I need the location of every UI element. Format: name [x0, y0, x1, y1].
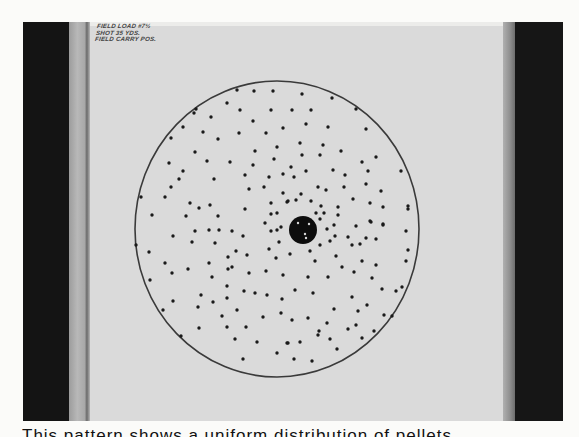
figure-caption: This pattern shows a uniform distributio…: [22, 426, 452, 437]
pellet-hole: [235, 308, 238, 311]
pellet-hole: [379, 189, 382, 192]
pellet-hole: [311, 291, 314, 294]
pellet-hole: [212, 177, 215, 180]
pellet-hole: [294, 198, 297, 201]
pellet-hole: [290, 108, 293, 111]
pellet-hole: [264, 131, 267, 134]
pellet-hole: [360, 160, 363, 163]
pellet-hole: [318, 217, 321, 220]
pellet-hole: [275, 351, 278, 354]
pellet-hole: [197, 206, 200, 209]
pellet-hole: [269, 229, 272, 232]
pellet-hole: [374, 237, 377, 240]
pellet-hole: [339, 149, 342, 152]
pellet-hole: [286, 199, 289, 202]
pellet-hole: [346, 327, 349, 330]
pellet-hole: [243, 173, 246, 176]
pellet-hole: [275, 228, 278, 231]
pellet-hole: [326, 275, 329, 278]
pellet-hole: [213, 241, 216, 244]
pellet-hole: [335, 347, 338, 350]
pellet-hole: [196, 305, 199, 308]
speck: [308, 223, 310, 225]
pellet-hole: [374, 263, 377, 266]
pellet-hole: [318, 243, 321, 246]
pellet-hole: [188, 201, 191, 204]
pellet-hole: [247, 187, 250, 190]
pellet-hole: [150, 213, 153, 216]
pellet-hole: [406, 207, 409, 210]
pellet-hole: [390, 314, 393, 317]
pellet-hole: [269, 201, 272, 204]
pellet-hole: [354, 323, 357, 326]
pellet-hole: [331, 168, 334, 171]
pellet-hole: [290, 318, 293, 321]
pellet-hole: [242, 289, 245, 292]
pellet-hole: [237, 131, 240, 134]
pellet-hole: [281, 172, 284, 175]
pellet-hole: [245, 253, 248, 256]
pellet-hole: [316, 333, 319, 336]
pellet-hole: [226, 267, 229, 270]
pellet-hole: [394, 289, 397, 292]
pellet-hole: [181, 169, 184, 172]
pellet-hole: [209, 115, 212, 118]
pellet-hole: [274, 256, 277, 259]
pellet-hole: [300, 153, 303, 156]
pellet-hole: [233, 337, 236, 340]
pellet-hole: [228, 160, 231, 163]
pellet-hole: [399, 169, 402, 172]
pellet-hole: [205, 159, 208, 162]
speck: [297, 222, 299, 224]
pellet-hole: [350, 243, 353, 246]
pellet-hole: [238, 108, 241, 111]
pellet-hole: [184, 214, 187, 217]
pellet-hole: [230, 229, 233, 232]
pellet-hole: [304, 169, 307, 172]
pellet-hole: [267, 247, 270, 250]
pellet-hole: [404, 259, 407, 262]
pellet-hole: [310, 359, 313, 362]
pellet-hole: [170, 271, 173, 274]
pellet-hole: [358, 242, 361, 245]
pellet-hole: [217, 228, 220, 231]
pellet-hole: [251, 119, 254, 122]
pellet-hole: [289, 165, 292, 168]
pellet-hole: [366, 169, 369, 172]
pellet-hole: [406, 248, 409, 251]
pellet-hole: [292, 357, 295, 360]
pellet-hole: [330, 96, 333, 99]
pellet-hole: [220, 314, 223, 317]
pellet-hole: [332, 223, 335, 226]
pellet-hole: [272, 157, 275, 160]
pellet-hole: [163, 261, 166, 264]
pellet-hole: [179, 334, 182, 337]
pellet-hole: [306, 316, 309, 319]
speck: [305, 237, 307, 239]
pellet-hole: [171, 234, 174, 237]
pellet-hole: [404, 229, 407, 232]
pellet-hole: [275, 145, 278, 148]
pellet-hole: [197, 326, 200, 329]
pellet-hole: [374, 155, 377, 158]
pellet-hole: [262, 185, 265, 188]
pellet-hole: [382, 313, 385, 316]
pellet-holes: [134, 88, 409, 362]
pellet-hole: [139, 195, 142, 198]
pellet-hole: [147, 250, 150, 253]
pellet-hole: [346, 235, 349, 238]
pellet-hole: [134, 243, 137, 246]
pellet-hole: [171, 299, 174, 302]
pellet-hole: [192, 111, 195, 114]
pellet-hole: [333, 234, 336, 237]
pellet-hole: [298, 340, 301, 343]
pellet-hole: [186, 267, 189, 270]
pellet-hole: [321, 143, 324, 146]
pellet-hole: [351, 197, 354, 200]
pellet-hole: [243, 207, 246, 210]
pellet-hole: [365, 303, 368, 306]
pellet-hole: [340, 265, 343, 268]
pellet-hole: [251, 163, 254, 166]
pellet-hole: [324, 188, 327, 191]
pellet-hole: [304, 122, 307, 125]
